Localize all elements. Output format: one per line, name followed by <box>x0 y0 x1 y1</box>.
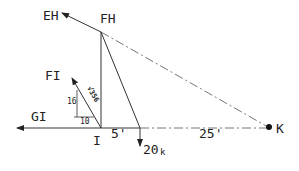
label-gi: GI <box>31 109 47 124</box>
label-slope-rise: 16 <box>67 97 77 106</box>
truss-diagram: EH FH FI GI I K 5' 25' 20 k 16 10 √356 <box>0 0 299 171</box>
label-fh: FH <box>100 11 116 26</box>
label-i: I <box>93 133 101 148</box>
label-dist-5: 5' <box>111 126 127 141</box>
diagram-canvas: EH FH FI GI I K 5' 25' 20 k 16 10 √356 <box>0 0 299 171</box>
label-slope-run: 10 <box>80 117 90 126</box>
label-load: 20 <box>143 142 159 157</box>
label-load-unit: k <box>160 147 166 157</box>
point-k <box>266 124 272 130</box>
line-fh-k <box>101 32 268 127</box>
label-fi: FI <box>45 68 61 83</box>
label-eh: EH <box>43 8 59 23</box>
diagonal-member <box>101 32 140 128</box>
label-slope-hyp: √356 <box>85 85 100 104</box>
label-k: K <box>276 121 284 136</box>
member-eh-arrow <box>62 13 101 32</box>
label-dist-25: 25' <box>199 126 222 141</box>
